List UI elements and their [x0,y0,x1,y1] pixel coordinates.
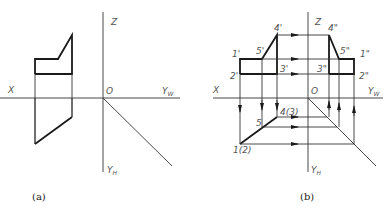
label-4-3-top: 4(3) [280,107,298,117]
axis-label-yh: YH [107,165,118,176]
axis-label-origin: O [311,86,318,96]
front-view-outline [35,35,72,74]
label-2-front: 2' [230,71,238,81]
label-5-top: 5 [256,118,262,128]
axis-label-origin: O [106,86,113,96]
45-degree-line [103,98,172,166]
label-1-front: 1' [232,49,240,59]
label-4-front: 4' [274,23,282,33]
axis-label-yw: YW [162,86,175,97]
caption-b: (b) [300,191,314,202]
panel-a: X Z O YW YH (a) [0,12,180,202]
axis-label-x: X [212,85,220,95]
label-1-side: 1" [360,49,370,59]
axis-label-yw: YW [368,86,381,97]
caption-a: (a) [32,191,46,202]
label-1-2-top: 1(2) [233,145,251,155]
panel-b: X Z O YW YH 1' 2' 3' 4' 5' 1" 2" 3" 4" 5… [212,12,383,202]
axis-label-z: Z [110,17,118,27]
label-5-front: 5' [256,46,264,56]
axis-label-yh: YH [311,165,322,176]
label-3-front: 3' [280,64,288,74]
label-4-side: 4" [328,23,338,33]
top-view-edge [35,117,72,144]
45-degree-line [308,98,376,166]
label-2-side: 2" [359,71,369,81]
label-5-side: 5" [340,46,350,56]
label-3-side: 3" [317,64,327,74]
orthographic-projection-diagram: X Z O YW YH (a) [0,0,391,212]
axis-label-z: Z [314,17,322,27]
axis-label-x: X [7,85,15,95]
